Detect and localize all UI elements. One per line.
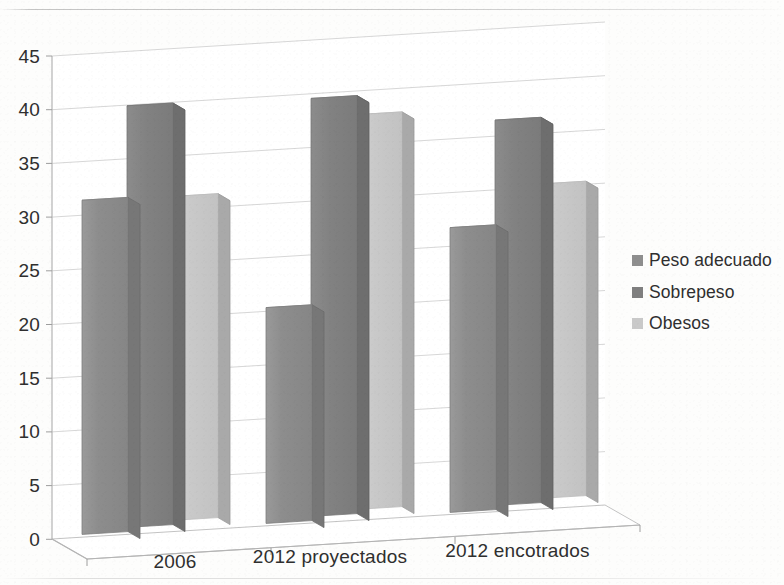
x-axis-label-2012-proyectados: 2012 proyectados <box>235 547 425 566</box>
y-axis-label-45: 45 <box>0 47 40 66</box>
legend-label-obesos: Obesos <box>649 315 710 333</box>
legend-label-sobrepeso: Sobrepeso <box>649 284 735 302</box>
legend-item-obesos[interactable]: Obesos <box>632 315 772 333</box>
y-axis-label-35: 35 <box>0 154 40 173</box>
y-axis-label-20: 20 <box>0 315 40 334</box>
legend-swatch-icon-obesos <box>632 318 643 329</box>
y-axis-label-5: 5 <box>0 476 40 495</box>
legend-swatch-icon-sobrepeso <box>632 287 643 298</box>
bar-2006-peso-adecuado <box>82 197 140 538</box>
x-axis-label-2006: 2006 <box>120 552 230 571</box>
y-axis-label-25: 25 <box>0 261 40 280</box>
legend-item-peso-adecuado[interactable]: Peso adecuado <box>632 252 772 270</box>
y-axis-label-30: 30 <box>0 208 40 227</box>
legend-swatch-icon-peso-adecuado <box>632 255 643 266</box>
y-axis-label-10: 10 <box>0 422 40 441</box>
bar-2012proy-peso-adecuado <box>266 305 324 528</box>
chart-container: 45 40 35 30 25 20 15 10 5 0 2006 2012 pr… <box>0 0 784 585</box>
chart-y-tickmarks <box>46 56 52 539</box>
legend-item-sobrepeso[interactable]: Sobrepeso <box>632 284 772 302</box>
y-axis-label-0: 0 <box>0 530 40 549</box>
y-axis-label-40: 40 <box>0 100 40 119</box>
x-axis-label-2012-encotrados: 2012 encotrados <box>425 541 610 560</box>
y-axis-label-15: 15 <box>0 369 40 388</box>
chart-legend: Peso adecuado Sobrepeso Obesos <box>632 252 772 333</box>
legend-label-peso-adecuado: Peso adecuado <box>649 252 772 270</box>
bar-2012enc-peso-adecuado <box>450 225 508 517</box>
